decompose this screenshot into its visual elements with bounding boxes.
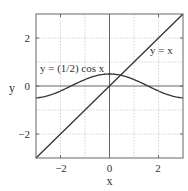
y-tick-label: −2 (18, 128, 30, 140)
annotation-cos-curve: y = (1/2) cos x (40, 62, 105, 75)
x-tick-label: −2 (55, 162, 67, 174)
y-tick-label: 0 (25, 80, 31, 92)
x-tick-label: 2 (155, 162, 161, 174)
y-tick-label: 2 (25, 32, 31, 44)
x-tick-label: 0 (107, 162, 113, 174)
chart: −2 0 2 2 0 −2 x y y = (1/2) cos x y = x (0, 0, 188, 191)
x-axis-label: x (107, 174, 113, 188)
y-axis-label: y (9, 81, 15, 95)
annotation-identity-line: y = x (150, 44, 173, 56)
